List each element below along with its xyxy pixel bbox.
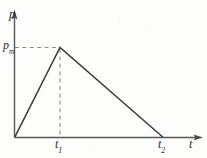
x-axis-label: t [189, 138, 192, 151]
y-tick-label-pm: pm [3, 39, 15, 51]
pressure-pulse-curve [15, 47, 163, 137]
x-tick-label-t1: t1 [55, 138, 62, 150]
y-axis-label: p [9, 7, 16, 20]
pressure-time-plot [0, 0, 207, 158]
figure-container: p pm t1 t2 t [0, 0, 207, 158]
x-tick-label-t2: t2 [158, 138, 165, 150]
